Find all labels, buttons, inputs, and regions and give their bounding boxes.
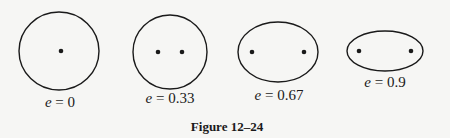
focus-dot bbox=[409, 49, 414, 54]
ellipse-e9 bbox=[347, 31, 423, 71]
ellipse-e33 bbox=[133, 15, 207, 89]
focus-dot bbox=[180, 50, 185, 55]
eccentricity-value: 0.9 bbox=[387, 74, 406, 90]
eccentricity-value: 0.33 bbox=[168, 90, 194, 106]
equals-sign: = bbox=[375, 74, 383, 90]
figure-caption: Figure 12–24 bbox=[191, 119, 263, 135]
label-e0: e = 0 bbox=[45, 94, 75, 111]
focus-dot bbox=[302, 50, 307, 55]
equals-sign: = bbox=[265, 87, 273, 103]
label-e67: e = 0.67 bbox=[255, 87, 304, 104]
variable-e: e bbox=[146, 90, 153, 106]
eccentricity-value: 0 bbox=[68, 94, 76, 110]
equals-sign: = bbox=[55, 94, 63, 110]
label-e33: e = 0.33 bbox=[146, 90, 195, 107]
variable-e: e bbox=[364, 74, 371, 90]
focus-dot bbox=[59, 49, 64, 54]
focus-dot bbox=[250, 50, 255, 55]
variable-e: e bbox=[255, 87, 262, 103]
label-e9: e = 0.9 bbox=[364, 74, 405, 91]
variable-e: e bbox=[45, 94, 52, 110]
ellipse-e67 bbox=[238, 22, 318, 82]
equals-sign: = bbox=[156, 90, 164, 106]
eccentricity-value: 0.67 bbox=[277, 87, 303, 103]
focus-dot bbox=[357, 49, 362, 54]
ellipse-figure bbox=[0, 0, 450, 138]
ellipse-e0 bbox=[19, 12, 99, 90]
focus-dot bbox=[156, 50, 161, 55]
ellipse-outline bbox=[133, 15, 207, 89]
